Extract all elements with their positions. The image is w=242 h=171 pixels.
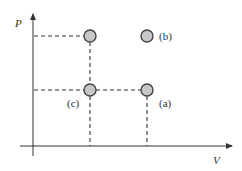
pv-diagram: P V (b) (c) (a) bbox=[0, 0, 242, 171]
y-axis-label: P bbox=[14, 17, 22, 29]
x-axis-label: V bbox=[213, 154, 221, 166]
state-point-top-left bbox=[84, 30, 96, 42]
label-c: (c) bbox=[67, 97, 80, 110]
label-b: (b) bbox=[159, 30, 172, 43]
state-point-c bbox=[84, 84, 96, 96]
state-point-a bbox=[141, 84, 153, 96]
label-a: (a) bbox=[159, 97, 172, 110]
state-point-b bbox=[141, 30, 153, 42]
